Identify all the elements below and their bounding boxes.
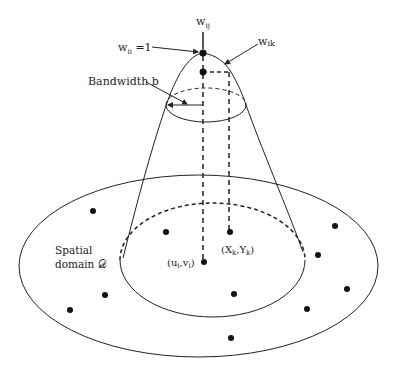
label-bandwidth: Bandwidth b xyxy=(88,75,159,88)
label-regression-point: (ui,vi) xyxy=(167,257,195,270)
label-w-ik: wik xyxy=(258,35,275,48)
data-point xyxy=(163,229,169,235)
w-ii-arrow xyxy=(152,47,198,52)
kernel-footprint-back xyxy=(120,203,305,260)
apex-dot xyxy=(199,49,206,56)
label-w-ii: wii =1 xyxy=(118,41,152,56)
label-spatial-domain-1: Spatial xyxy=(55,244,93,256)
data-point xyxy=(102,292,108,298)
data-point xyxy=(90,208,96,214)
kernel-surface-right xyxy=(203,53,303,252)
data-point xyxy=(304,306,310,312)
gwr-kernel-diagram: wij wii =1 wik Bandwidth b Spatial domai… xyxy=(0,0,395,369)
kernel-footprint-front xyxy=(120,260,305,317)
label-w-ij: wij xyxy=(196,15,210,30)
data-point xyxy=(228,335,234,341)
data-point xyxy=(67,307,73,313)
regression-point-dot xyxy=(201,259,207,265)
label-data-point-k: (Xk,Yk) xyxy=(221,244,254,257)
bandwidth-ellipse-back xyxy=(166,88,246,105)
w-ik-height-dot xyxy=(200,69,207,76)
label-spatial-domain-2: domain 𝒟 xyxy=(55,258,107,270)
data-point xyxy=(344,286,350,292)
data-point xyxy=(231,291,237,297)
data-point xyxy=(315,252,321,258)
w-ik-arrow xyxy=(225,44,258,64)
data-points xyxy=(67,208,350,341)
data-point xyxy=(332,223,338,229)
data-point-k-dot xyxy=(227,229,233,235)
bandwidth-ellipse-front xyxy=(166,105,246,122)
